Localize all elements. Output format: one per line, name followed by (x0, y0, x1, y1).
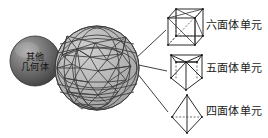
label-hexahedron: 六面体单元 (206, 20, 262, 31)
diagram-canvas: 其他 几何体 六面体单元 五面体单元 四面体单元 (0, 0, 268, 138)
other-geometry-label-line2: 几何体 (9, 62, 61, 72)
label-pentahedron: 五面体单元 (206, 63, 262, 74)
triangulated-mesh-sphere (55, 26, 139, 110)
tetrahedron-wireframe-icon (171, 94, 203, 134)
other-geometry-label: 其他 几何体 (9, 52, 61, 73)
cube-wireframe-icon (167, 8, 204, 46)
other-geometry-label-line1: 其他 (9, 52, 61, 62)
label-tetrahedron: 四面体单元 (206, 106, 262, 117)
leader-line-hexahedron (134, 30, 166, 60)
triangular-prism-wireframe-icon (170, 54, 203, 91)
